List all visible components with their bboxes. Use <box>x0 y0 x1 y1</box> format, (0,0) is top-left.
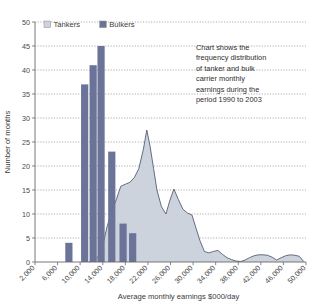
legend-label: Tankers <box>54 20 81 29</box>
x-tick-label: 6,000 <box>40 264 59 283</box>
chart-annotation: Chart shows thefrequency distributionof … <box>196 43 266 104</box>
y-tick-label: 50 <box>22 18 30 27</box>
x-tick-label: 26,000 <box>150 264 172 286</box>
x-tick-label: 42,000 <box>240 264 262 286</box>
x-tick-label: 14,000 <box>82 264 104 286</box>
chart-legend: TankersBulkers <box>44 20 135 29</box>
y-tick-label: 30 <box>22 114 30 123</box>
chart-container: 05101520253035404550 2,0006,00010,00014,… <box>0 0 320 307</box>
annotation-line: of tanker and bulk <box>196 64 255 73</box>
legend-label: Bulkers <box>109 20 135 29</box>
x-tick-label: 50,000 <box>286 264 308 286</box>
legend-swatch <box>44 21 51 28</box>
x-axis-title: Average monthly earnings $000/day <box>118 292 240 301</box>
x-tick-label: 18,000 <box>105 264 127 286</box>
annotation-line: carrier monthly <box>196 74 245 83</box>
y-tick-label: 40 <box>22 66 30 75</box>
y-tick-label: 25 <box>22 138 30 147</box>
y-tick-label: 35 <box>22 90 30 99</box>
x-tick-label: 30,000 <box>173 264 195 286</box>
x-tick-label: 2,000 <box>17 264 36 283</box>
x-tick-label: 10,000 <box>60 264 82 286</box>
y-axis-ticks: 05101520253035404550 <box>22 18 35 267</box>
x-tick-label: 34,000 <box>195 264 217 286</box>
y-tick-label: 20 <box>22 162 30 171</box>
annotation-line: period 1990 to 2003 <box>196 95 262 104</box>
annotation-line: frequency distribution <box>196 53 266 62</box>
y-tick-label: 10 <box>22 210 30 219</box>
bulkers-bar-series <box>65 46 136 262</box>
annotation-line: Chart shows the <box>196 43 249 52</box>
x-axis-ticks: 2,0006,00010,00014,00018,00022,00026,000… <box>17 262 307 285</box>
y-tick-label: 15 <box>22 186 30 195</box>
y-tick-label: 45 <box>22 42 30 51</box>
y-axis-title: Number of months <box>3 111 12 174</box>
x-tick-label: 22,000 <box>127 264 149 286</box>
frequency-distribution-chart: 05101520253035404550 2,0006,00010,00014,… <box>0 0 320 307</box>
x-tick-label: 38,000 <box>218 264 240 286</box>
annotation-line: earnings during the <box>196 85 259 94</box>
y-tick-label: 5 <box>26 234 30 243</box>
x-tick-label: 46,000 <box>263 264 285 286</box>
legend-swatch <box>100 21 107 28</box>
